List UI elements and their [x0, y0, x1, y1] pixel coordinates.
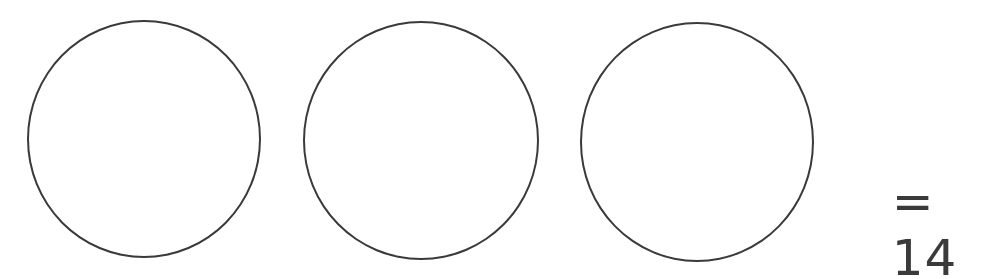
- circle-2: [303, 21, 539, 260]
- circle-3: [580, 22, 814, 262]
- equals-sign: =: [892, 173, 935, 231]
- equation-result: = 14: [858, 118, 957, 279]
- result-value: 14: [892, 229, 958, 279]
- circle-1: [27, 20, 261, 258]
